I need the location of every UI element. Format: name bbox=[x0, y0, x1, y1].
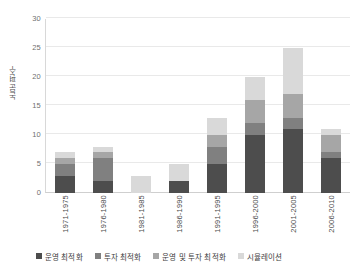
bar-group[interactable] bbox=[245, 19, 265, 193]
bar-segment[interactable] bbox=[283, 94, 303, 117]
bar-segment[interactable] bbox=[207, 135, 227, 147]
x-tick-1976-1980: 1976-1980 bbox=[99, 195, 108, 233]
legend-item[interactable]: 운영 최적화 bbox=[36, 251, 83, 262]
bar-group[interactable] bbox=[207, 19, 227, 193]
bar-segment[interactable] bbox=[245, 77, 265, 100]
bar-group[interactable] bbox=[169, 19, 189, 193]
bar-stack[interactable] bbox=[131, 176, 151, 193]
bar-group[interactable] bbox=[283, 19, 303, 193]
legend-item[interactable]: 투자 최적화 bbox=[95, 251, 142, 262]
bar-segment[interactable] bbox=[207, 164, 227, 193]
bar-group[interactable] bbox=[321, 19, 341, 193]
legend-item[interactable]: 시뮬레이션 bbox=[238, 251, 283, 262]
bar-stack[interactable] bbox=[169, 164, 189, 193]
bar-stack[interactable] bbox=[283, 48, 303, 193]
y-tick-15: 15 bbox=[1, 102, 41, 110]
bar-segment[interactable] bbox=[93, 181, 113, 193]
bar-group[interactable] bbox=[55, 19, 75, 193]
bar-group[interactable] bbox=[131, 19, 151, 193]
y-tick-5: 5 bbox=[1, 160, 41, 168]
bar-segment[interactable] bbox=[207, 147, 227, 164]
legend-label: 투자 최적화 bbox=[104, 251, 142, 262]
y-tick-30: 30 bbox=[1, 15, 41, 23]
bar-segment[interactable] bbox=[131, 176, 151, 193]
x-tick-2006-2010: 2006-2010 bbox=[327, 195, 336, 233]
bar-segment[interactable] bbox=[283, 48, 303, 94]
bar-stack[interactable] bbox=[245, 77, 265, 193]
bar-stack[interactable] bbox=[93, 147, 113, 193]
x-tick-1981-1985: 1981-1985 bbox=[137, 195, 146, 233]
bar-segment[interactable] bbox=[321, 135, 341, 152]
y-tick-20: 20 bbox=[1, 73, 41, 81]
chart-legend: 운영 최적화투자 최적화운영 및 투자 최적화시뮬레이션 bbox=[36, 250, 348, 262]
legend-label: 운영 최적화 bbox=[45, 251, 83, 262]
y-axis-tick-labels: 051015202530 bbox=[0, 19, 41, 193]
gridline-30 bbox=[46, 17, 350, 18]
bars-layer bbox=[46, 19, 350, 193]
bar-segment[interactable] bbox=[283, 118, 303, 130]
legend-label: 시뮬레이션 bbox=[247, 251, 283, 262]
bar-segment[interactable] bbox=[207, 118, 227, 135]
bar-segment[interactable] bbox=[283, 129, 303, 193]
bar-stack[interactable] bbox=[321, 129, 341, 193]
bar-segment[interactable] bbox=[321, 158, 341, 193]
legend-swatch-icon bbox=[36, 253, 42, 259]
stacked-bar-chart: 논문 편수 051015202530 1971-19751976-1980198… bbox=[0, 0, 360, 274]
legend-label: 운영 및 투자 최적화 bbox=[162, 251, 225, 262]
bar-segment[interactable] bbox=[245, 135, 265, 193]
x-tick-2001-2005: 2001-2005 bbox=[289, 195, 298, 233]
bar-segment[interactable] bbox=[169, 181, 189, 193]
legend-item[interactable]: 운영 및 투자 최적화 bbox=[153, 251, 225, 262]
bar-segment[interactable] bbox=[55, 176, 75, 193]
bar-segment[interactable] bbox=[245, 100, 265, 123]
x-tick-1971-1975: 1971-1975 bbox=[61, 195, 70, 233]
x-tick-1986-1990: 1986-1990 bbox=[175, 195, 184, 233]
bar-stack[interactable] bbox=[207, 118, 227, 193]
x-tick-1996-2000: 1996-2000 bbox=[251, 195, 260, 233]
bar-segment[interactable] bbox=[55, 164, 75, 176]
bar-segment[interactable] bbox=[169, 164, 189, 181]
bar-segment[interactable] bbox=[93, 158, 113, 181]
y-tick-0: 0 bbox=[1, 189, 41, 197]
bar-segment[interactable] bbox=[245, 123, 265, 135]
bar-group[interactable] bbox=[93, 19, 113, 193]
bar-stack[interactable] bbox=[55, 152, 75, 193]
x-tick-1991-1995: 1991-1995 bbox=[213, 195, 222, 233]
legend-swatch-icon bbox=[238, 253, 244, 259]
legend-swatch-icon bbox=[95, 253, 101, 259]
y-tick-25: 25 bbox=[1, 44, 41, 52]
legend-swatch-icon bbox=[153, 253, 159, 259]
x-axis-tick-labels: 1971-19751976-19801981-19851986-19901991… bbox=[46, 195, 350, 247]
y-tick-10: 10 bbox=[1, 131, 41, 139]
